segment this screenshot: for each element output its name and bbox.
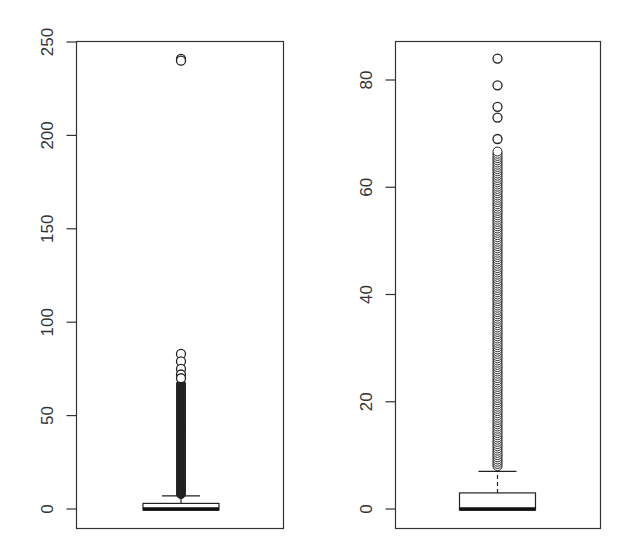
y-tick-label: 0 — [38, 504, 57, 513]
y-tick-label: 50 — [38, 406, 57, 425]
y-tick-label: 80 — [357, 71, 376, 90]
outlier-point — [177, 56, 186, 65]
outlier-point — [493, 102, 502, 111]
boxplot-figure: 050100150200250 020406080 — [0, 0, 635, 553]
right-y-axis: 020406080 — [357, 71, 396, 514]
left-boxplot — [143, 54, 219, 510]
y-tick-label: 60 — [357, 178, 376, 197]
y-tick-label: 0 — [357, 504, 376, 513]
outlier-point — [493, 134, 502, 143]
y-tick-label: 20 — [357, 392, 376, 411]
outlier-point — [177, 374, 186, 383]
outlier-point — [493, 81, 502, 90]
y-tick-label: 250 — [38, 28, 57, 56]
outlier-point — [493, 54, 502, 63]
right-boxplot — [460, 54, 536, 510]
outlier-point — [493, 147, 502, 156]
left-y-axis: 050100150200250 — [38, 28, 77, 514]
y-tick-label: 150 — [38, 215, 57, 243]
y-tick-label: 40 — [357, 285, 376, 304]
outlier-point — [493, 113, 502, 122]
y-tick-label: 100 — [38, 308, 57, 336]
y-tick-label: 200 — [38, 121, 57, 149]
